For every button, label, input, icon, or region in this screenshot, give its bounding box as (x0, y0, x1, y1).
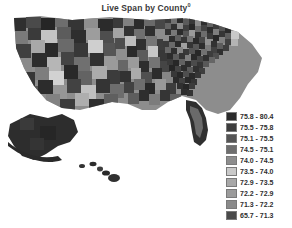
legend-swatch (226, 145, 237, 154)
legend-swatch (226, 112, 237, 121)
legend-label: 74.5 - 75.1 (240, 145, 273, 154)
legend-label: 71.3 - 72.2 (240, 200, 273, 209)
legend-item: 75.5 - 75.8 (226, 122, 290, 133)
legend-label: 75.1 - 75.5 (240, 134, 273, 143)
legend-label: 65.7 - 71.3 (240, 211, 273, 220)
legend-swatch (226, 211, 237, 220)
legend-item: 74.0 - 74.5 (226, 155, 290, 166)
legend-swatch (226, 123, 237, 132)
chart-title-superscript: 0 (187, 2, 190, 8)
legend-item: 73.5 - 74.0 (226, 166, 290, 177)
legend-label: 73.5 - 74.0 (240, 167, 273, 176)
chart-title-text: Live Span by County (101, 3, 187, 13)
legend-item: 72.9 - 73.5 (226, 177, 290, 188)
lower-48-states (0, 14, 292, 124)
legend-item: 65.7 - 71.3 (226, 210, 290, 221)
legend-item: 74.5 - 75.1 (226, 144, 290, 155)
legend-swatch (226, 134, 237, 143)
map-legend: 75.8 - 80.4 75.5 - 75.8 75.1 - 75.5 74.5… (226, 111, 290, 221)
legend-label: 74.0 - 74.5 (240, 156, 273, 165)
legend-item: 72.2 - 72.9 (226, 188, 290, 199)
legend-swatch (226, 178, 237, 187)
legend-label: 75.8 - 80.4 (240, 112, 273, 121)
legend-label: 72.9 - 73.5 (240, 178, 273, 187)
legend-swatch (226, 167, 237, 176)
legend-swatch (226, 200, 237, 209)
legend-item: 75.8 - 80.4 (226, 111, 290, 122)
legend-item: 75.1 - 75.5 (226, 133, 290, 144)
legend-label: 72.2 - 72.9 (240, 189, 273, 198)
legend-label: 75.5 - 75.8 (240, 123, 273, 132)
legend-item: 71.3 - 72.2 (226, 199, 290, 210)
legend-swatch (226, 156, 237, 165)
chart-title: Live Span by County0 (0, 2, 292, 13)
legend-swatch (226, 189, 237, 198)
figure-container: Live Span by County0 (0, 0, 292, 228)
hawaii-inset (79, 162, 120, 182)
